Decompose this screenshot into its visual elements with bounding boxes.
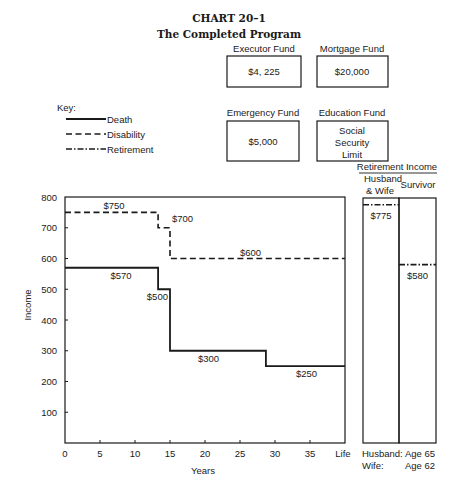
- y-tick-label: 300: [41, 345, 57, 356]
- fund-value: $20,000: [335, 66, 369, 77]
- y-axis-label: Income: [22, 289, 33, 320]
- fund-emergency: Emergency Fund $5,000: [227, 107, 299, 161]
- x-tick-label: 25: [235, 448, 246, 459]
- fund-value: $4, 225: [248, 66, 280, 77]
- x-tick-label: 10: [130, 448, 141, 459]
- col-husband-wife-line1: Husband: [364, 173, 402, 184]
- fund-label: Executor Fund: [233, 43, 295, 54]
- x-tick-label: 30: [270, 448, 281, 459]
- data-label: $750: [103, 200, 124, 211]
- plot-frame: [65, 197, 345, 443]
- husband-wife-bar-frame: [363, 198, 399, 443]
- data-label: $500: [147, 291, 168, 302]
- series-death-line: [65, 268, 345, 366]
- x-tick-label: 0: [62, 448, 67, 459]
- legend-label-death: Death: [107, 114, 132, 125]
- col-survivor: Survivor: [401, 179, 436, 190]
- x-tick-label: 5: [97, 448, 102, 459]
- retirement-value: $775: [370, 210, 391, 221]
- survivor-bar-frame: [399, 198, 436, 443]
- legend: Key: Death Disability Retirement: [57, 102, 154, 155]
- col-husband-wife-line2: & Wife: [366, 185, 394, 196]
- retirement-panel-title: Retirement Income: [357, 161, 437, 172]
- fund-label: Education Fund: [319, 107, 386, 118]
- y-axis-ticks: 800700600500400300200100: [41, 192, 68, 418]
- x-axis-label: Years: [191, 465, 215, 476]
- data-label: $250: [296, 368, 317, 379]
- fund-mortgage: Mortgage Fund $20,000: [317, 43, 388, 87]
- x-tick-label: 15: [165, 448, 176, 459]
- y-tick-label: 600: [41, 253, 57, 264]
- series-disability-line: [65, 212, 345, 258]
- data-label: $700: [172, 213, 193, 224]
- y-tick-label: 400: [41, 315, 57, 326]
- fund-value: $5,000: [248, 136, 277, 147]
- data-label: $300: [198, 353, 219, 364]
- x-tick-label: Life: [335, 448, 350, 459]
- fund-value-line: Security: [335, 137, 370, 148]
- fund-value-line: Social: [339, 125, 365, 136]
- retirement-panel: Retirement Income Husband & Wife Survivo…: [357, 161, 437, 471]
- legend-label-retirement: Retirement: [107, 144, 154, 155]
- chart-subtitle: The Completed Program: [157, 28, 301, 40]
- series-layer: $570$500$300$250$750$700$600: [65, 200, 345, 379]
- main-plot: 800700600500400300200100 05101520253035L…: [22, 192, 351, 477]
- x-tick-label: 35: [305, 448, 316, 459]
- footer-wife-label: Wife:: [362, 460, 384, 471]
- chart-figure: CHART 20–1 The Completed Program Executo…: [0, 0, 457, 495]
- legend-label-disability: Disability: [107, 129, 145, 140]
- y-tick-label: 100: [41, 407, 57, 418]
- fund-executor: Executor Fund $4, 225: [227, 43, 301, 87]
- y-tick-label: 200: [41, 376, 57, 387]
- footer-husband-age: Age 65: [405, 448, 435, 459]
- data-label: $570: [110, 270, 131, 281]
- y-tick-label: 800: [41, 192, 57, 203]
- legend-title: Key:: [57, 102, 76, 113]
- fund-value-line: Limit: [342, 149, 362, 160]
- y-tick-label: 500: [41, 284, 57, 295]
- y-tick-label: 700: [41, 222, 57, 233]
- retirement-value: $580: [407, 270, 428, 281]
- fund-label: Mortgage Fund: [320, 43, 384, 54]
- footer-wife-age: Age 62: [405, 460, 435, 471]
- chart-number: CHART 20–1: [192, 12, 266, 24]
- footer-husband-label: Husband:: [362, 448, 403, 459]
- x-tick-label: 20: [200, 448, 211, 459]
- data-label: $600: [240, 247, 261, 258]
- fund-label: Emergency Fund: [227, 107, 299, 118]
- fund-education: Education Fund Social Security Limit: [317, 107, 388, 161]
